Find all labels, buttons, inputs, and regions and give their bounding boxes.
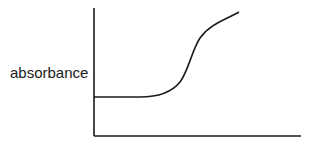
absorbance-curve: [94, 12, 239, 97]
chart-plot: [0, 0, 310, 148]
